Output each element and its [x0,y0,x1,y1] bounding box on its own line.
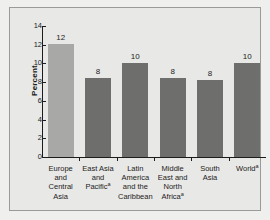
bar-value-label: 10 [243,52,252,61]
bar-slot: 8 [154,26,191,157]
y-axis-tick-label: 6 [18,96,42,105]
bar [160,78,186,157]
bar-value-label: 8 [96,67,100,76]
category-label-line: Pacifica [79,182,116,191]
y-axis-tick-label: 2 [18,133,42,142]
chart-figure: Percent 14121086420 128108810 EuropeandC… [0,0,270,220]
category-label: MiddleEast andNorthAfricaa [154,164,191,201]
category-separator-tick [154,157,155,161]
bar-value-label: 10 [131,52,140,61]
bar-value-label: 8 [208,69,212,78]
category-label: Worlda [229,164,266,173]
category-label-line: Worlda [229,164,266,173]
footnote-marker: a [256,163,259,169]
y-axis-tick-label: 14 [18,21,42,30]
category-label-line: Asia [191,173,228,182]
category-label-line: Central Asia [42,182,79,200]
bar-value-label: 8 [170,67,174,76]
category-separator-tick [117,157,118,161]
category-separator-tick [191,157,192,161]
bar [122,63,148,157]
bar [197,80,223,157]
bar-slot: 8 [191,26,228,157]
category-label-line: Middle [154,164,191,173]
y-axis-tick-label: 4 [18,115,42,124]
bar-slot: 10 [229,26,266,157]
category-label-line: Europe [42,164,79,173]
category-separator-tick [229,157,230,161]
category-label-line: Latin [117,164,154,173]
category-label-line: and the [117,182,154,191]
category-label-line: America [117,173,154,182]
bar-slot: 12 [42,26,79,157]
category-label-line: and [42,173,79,182]
category-label: SouthAsia [191,164,228,182]
bar [48,44,74,157]
bar-slot: 10 [117,26,154,157]
category-label: LatinAmericaand theCaribbean [117,164,154,201]
category-separator-tick [79,157,80,161]
footnote-marker: a [108,181,111,187]
bar [234,63,260,157]
bar-slot: 8 [79,26,116,157]
bar-value-label: 12 [56,33,65,42]
category-label-line: South [191,164,228,173]
footnote-marker: a [181,190,184,196]
y-axis-tick-mark [42,157,46,158]
y-axis-tick-label: 0 [18,152,42,161]
category-label-line: Caribbean [117,192,154,201]
chart-frame: Percent 14121086420 128108810 EuropeandC… [9,7,261,211]
y-axis-tick-label: 12 [18,40,42,49]
bar [85,78,111,157]
category-label-line: East and [154,173,191,182]
y-axis-tick-label: 8 [18,77,42,86]
category-label: East AsiaandPacifica [79,164,116,192]
category-label-line: East Asia [79,164,116,173]
category-label-line: Africaa [154,192,191,201]
y-axis-tick-label: 10 [18,58,42,67]
category-label: EuropeandCentral Asia [42,164,79,201]
category-label-line: North [154,182,191,191]
